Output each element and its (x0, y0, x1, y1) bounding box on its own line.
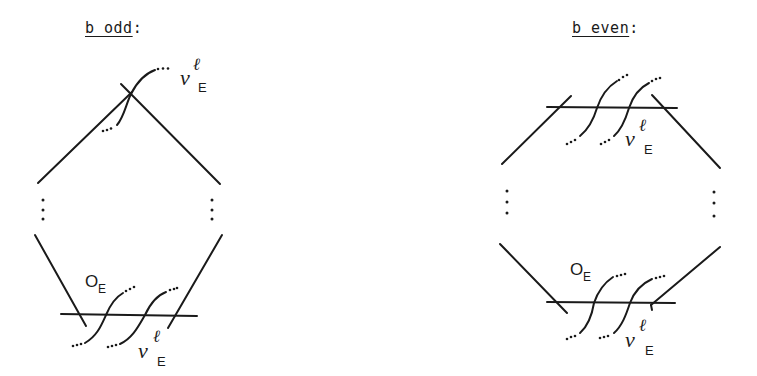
e-subscript: E (583, 270, 591, 284)
odd-top-nu-label: ν ℓ E (180, 55, 207, 95)
odd-top-right-edge (121, 84, 220, 184)
nu-symbol: ν (625, 126, 635, 151)
even-bottom-nu-label: ν ℓ E (625, 316, 654, 358)
odd-o-label: O E (85, 272, 106, 296)
odd-top-strand-dots-upper (157, 67, 170, 70)
odd-top-strand-dots-lower (102, 127, 113, 132)
nu-symbol: ν (138, 338, 148, 363)
ell-superscript: ℓ (193, 55, 200, 74)
even-top-strand-1 (580, 81, 617, 136)
even-o-label: O E (570, 260, 591, 284)
e-subscript: E (157, 354, 166, 369)
o-symbol: O (570, 260, 583, 279)
odd-top-left-edge (38, 92, 132, 183)
even-bottom-right-edge (651, 247, 720, 305)
e-subscript: E (198, 80, 207, 95)
e-subscript: E (98, 282, 106, 296)
diagram-canvas: ν ℓ E O E (0, 0, 757, 376)
even-top-nu-label: ν ℓ E (625, 116, 653, 157)
nu-symbol: ν (180, 65, 190, 90)
e-subscript: E (645, 343, 654, 358)
even-diagram: ν ℓ E O E (500, 74, 720, 358)
nu-symbol: ν (625, 327, 635, 352)
odd-bottom-nu-label: ν ℓ E (138, 327, 166, 369)
even-left-ellipsis (506, 190, 509, 215)
odd-bottom-right-edge (168, 235, 222, 328)
odd-bottom-strand-1 (85, 293, 123, 343)
ell-superscript: ℓ (639, 116, 646, 135)
odd-right-ellipsis (211, 199, 214, 221)
even-top-horizontal (547, 107, 677, 108)
even-bottom-horizontal (547, 302, 675, 303)
even-bottom-strand-1 (580, 277, 613, 333)
odd-bottom-left-edge (35, 235, 86, 326)
odd-left-ellipsis (42, 199, 45, 221)
even-top-right-edge (652, 95, 720, 168)
even-bottom-strand-2 (614, 279, 652, 333)
even-bottom-right-edge-tail (651, 305, 652, 310)
even-top-left-edge (502, 96, 571, 164)
o-symbol: O (85, 272, 98, 291)
ell-superscript: ℓ (153, 327, 160, 346)
ell-superscript: ℓ (639, 316, 646, 335)
e-subscript: E (644, 142, 653, 157)
odd-top-strand (117, 70, 155, 125)
even-right-ellipsis (713, 191, 716, 218)
odd-diagram: ν ℓ E O E (35, 55, 222, 369)
